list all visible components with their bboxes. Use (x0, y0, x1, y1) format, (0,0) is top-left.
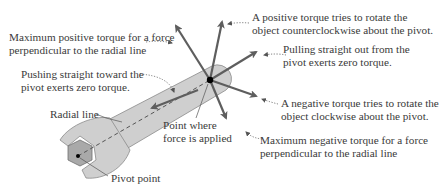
pivot-dot (76, 154, 80, 158)
application-point-dot (207, 77, 213, 83)
label-max-negative: Maximum negative torque for a force perp… (260, 134, 428, 159)
label-pulling-out: Pulling straight out from the pivot exer… (283, 43, 410, 68)
label-max-positive: Maximum positive torque for a force perp… (9, 31, 175, 56)
label-negative-torque: A negative torque tries to rotate the ob… (281, 97, 439, 122)
label-point-applied: Point where force is applied (163, 119, 232, 144)
label-positive-torque: A positive torque tries to rotate the ob… (252, 11, 433, 36)
arrow-max-positive (176, 26, 210, 80)
label-radial-line: Radial line (50, 108, 99, 121)
label-pushing-toward: Pushing straight toward the pivot exerts… (21, 68, 144, 93)
label-pivot-point: Pivot point (111, 172, 160, 185)
hex-nut (68, 140, 92, 166)
